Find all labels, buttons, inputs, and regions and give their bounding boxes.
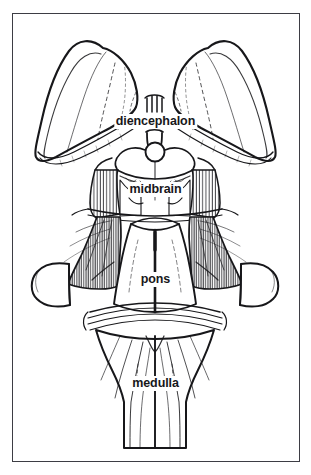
label-midbrain: midbrain [128, 182, 184, 197]
left-thalamic-lobe [35, 41, 137, 166]
label-medulla: medulla [129, 376, 182, 391]
brainstem-diagram [0, 0, 311, 475]
label-pons: pons [138, 272, 173, 287]
label-diencephalon: diencephalon [114, 114, 197, 129]
left-cerebellar-peduncle [64, 217, 121, 289]
right-flocculus [240, 263, 278, 306]
figure-root: diencephalon midbrain pons medulla [0, 0, 311, 475]
right-cerebellar-peduncle [189, 217, 246, 289]
left-flocculus [32, 263, 70, 306]
right-thalamic-lobe [174, 41, 276, 166]
